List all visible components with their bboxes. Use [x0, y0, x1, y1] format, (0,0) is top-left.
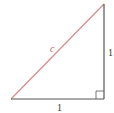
hypotenuse-label: c	[50, 43, 55, 54]
right-angle-marker	[96, 91, 104, 99]
horizontal-leg-label: 1	[57, 102, 62, 113]
vertical-leg-label: 1	[108, 47, 113, 58]
right-triangle-diagram: c 1 1	[0, 0, 114, 113]
hypotenuse-line	[11, 4, 104, 99]
